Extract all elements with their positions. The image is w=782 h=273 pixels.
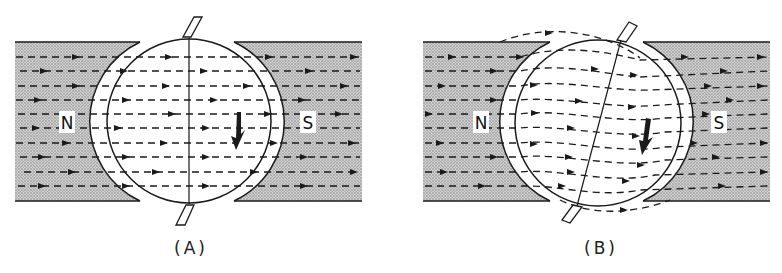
bottom-brush-b [562,205,582,223]
north-label-b: N [475,113,488,133]
caption-b: (B) [584,238,618,258]
south-label-a: S [303,113,314,133]
south-label-b: S [714,113,725,133]
panel-b: N S [423,22,770,223]
top-brush-b [617,22,637,42]
bottom-brush-a [176,205,194,225]
north-label-a: N [61,113,74,133]
generator-field-diagram: N S [0,0,782,273]
rotation-arrow-icon-a [231,112,245,150]
caption-a: (A) [174,238,208,258]
panel-a: N S [15,17,362,225]
armature-b [515,40,681,206]
north-pole-piece-a [15,42,140,201]
neutral-axis-b [577,40,621,206]
south-pole-piece-b [643,42,770,201]
top-brush-a [183,17,202,37]
south-pole-piece-a [234,42,362,201]
